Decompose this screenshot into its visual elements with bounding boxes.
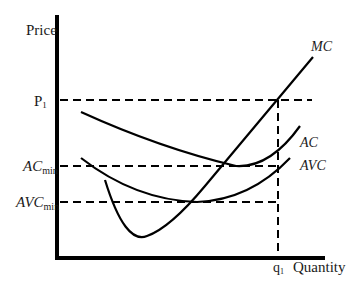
ac-curve [81,112,300,166]
q1-label: q1 [273,260,284,276]
avc-min-label: AVCmin [15,194,59,212]
avc-label: AVC [299,158,326,173]
y-axis-label: Price [26,22,57,38]
cost-curves-diagram: Price Quantity P1 ACmin AVCmin q1 MC AC … [0,0,360,289]
ac-min-label: ACmin [22,158,58,176]
x-axis-label: Quantity [293,259,346,275]
p1-label: P1 [34,93,47,110]
ac-label: AC [299,135,319,150]
mc-label: MC [310,39,333,54]
avc-curve [81,158,290,202]
